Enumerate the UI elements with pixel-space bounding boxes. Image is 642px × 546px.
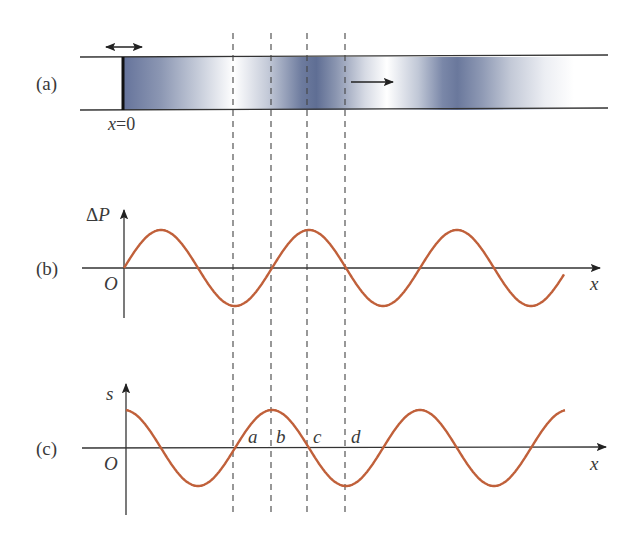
tube-density-gradient (122, 57, 608, 110)
tube-top-wall (80, 55, 608, 57)
panel-a-label: (a) (36, 73, 57, 95)
panel-a: (a) x=0 (36, 47, 608, 134)
point-label-d: d (351, 426, 361, 447)
sound-wave-diagram: (a) x=0 (b) ΔP O x (c) s O x a b c d (0, 0, 642, 546)
x-axis-label-b: x (589, 273, 599, 294)
y-axis-label-b: ΔP (86, 204, 110, 225)
panel-c-label: (c) (36, 438, 57, 460)
panel-c: (c) s O x a b c d (36, 383, 606, 515)
panel-b-label: (b) (36, 258, 58, 280)
point-label-c: c (313, 426, 322, 447)
point-label-a: a (248, 426, 258, 447)
origin-label-c: O (104, 453, 118, 474)
origin-label-b: O (104, 273, 118, 294)
point-label-b: b (276, 426, 286, 447)
y-axis-label-c: s (106, 383, 113, 404)
x-axis-label-c: x (589, 453, 599, 474)
origin-label: x=0 (107, 114, 135, 134)
panel-b: (b) ΔP O x (36, 204, 600, 318)
